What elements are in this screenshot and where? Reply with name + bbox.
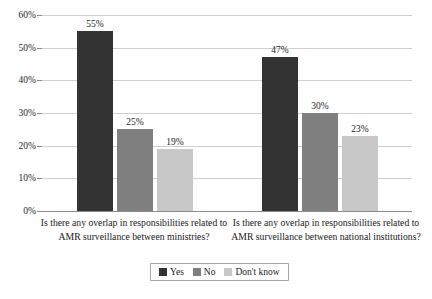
category-label-0: Is there any overlap in responsibilities… bbox=[34, 216, 234, 243]
bar-yes-0: 55% bbox=[77, 31, 113, 211]
bar-value-label: 55% bbox=[86, 19, 103, 29]
bar-group-1: 47%30%23% bbox=[227, 15, 412, 211]
y-axis-tick-label: 50% bbox=[0, 43, 36, 53]
legend-label: Don't know bbox=[235, 267, 279, 277]
bar-yes-1: 47% bbox=[262, 57, 298, 211]
y-axis-tick-label: 40% bbox=[0, 75, 36, 85]
legend-item-0[interactable]: Yes bbox=[159, 267, 184, 277]
plot-area: 55%25%19%47%30%23% bbox=[42, 15, 412, 211]
legend-label: Yes bbox=[170, 267, 184, 277]
bar-value-label: 25% bbox=[126, 117, 143, 127]
chart-legend: YesNoDon't know bbox=[150, 263, 289, 281]
y-axis-tick-label: 10% bbox=[0, 173, 36, 183]
legend-item-2[interactable]: Don't know bbox=[224, 267, 279, 277]
legend-label: No bbox=[204, 267, 216, 277]
bar-value-label: 47% bbox=[271, 45, 288, 55]
legend-swatch-icon bbox=[193, 268, 201, 276]
legend-item-1[interactable]: No bbox=[193, 267, 216, 277]
bar-group-0: 55%25%19% bbox=[42, 15, 227, 211]
bar-value-label: 19% bbox=[166, 137, 183, 147]
gridline-0 bbox=[42, 211, 412, 212]
legend-swatch-icon bbox=[224, 268, 232, 276]
bar-don-t-know-0: 19% bbox=[157, 149, 193, 211]
bar-don-t-know-1: 23% bbox=[342, 136, 378, 211]
y-axis-tick-label: 0% bbox=[0, 206, 36, 216]
legend-swatch-icon bbox=[159, 268, 167, 276]
bar-no-0: 25% bbox=[117, 129, 153, 211]
y-axis-tick-label: 20% bbox=[0, 141, 36, 151]
category-label-1: Is there any overlap in responsibilities… bbox=[226, 216, 426, 243]
bar-no-1: 30% bbox=[302, 113, 338, 211]
bar-chart: 0%10%20%30%40%50%60% 55%25%19%47%30%23% … bbox=[0, 0, 432, 299]
bar-value-label: 30% bbox=[311, 101, 328, 111]
y-axis-tick-label: 30% bbox=[0, 108, 36, 118]
y-axis-tick-label: 60% bbox=[0, 10, 36, 20]
bar-value-label: 23% bbox=[351, 124, 368, 134]
